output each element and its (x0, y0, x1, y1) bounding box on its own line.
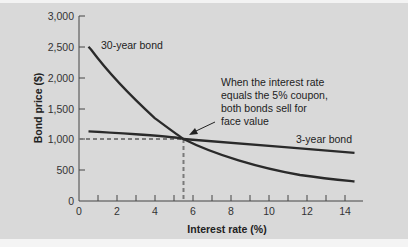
y-tick-2000: 2,000 (48, 72, 74, 84)
x-tick-2: 2 (114, 205, 120, 217)
label-3-year-bond: 3-year bond (296, 133, 352, 145)
annotation-line-4: face value (221, 115, 269, 127)
x-tick-0: 0 (76, 205, 82, 217)
arrow-head-icon (189, 128, 198, 135)
bond-price-chart: 3,000 2,500 2,000 1,500 1,000 500 0 Bond… (0, 0, 408, 247)
y-tick-2500: 2,500 (48, 41, 74, 53)
x-tick-12: 12 (301, 205, 313, 217)
x-axis: 0 2 4 6 8 10 12 14 Interest rate (%) (76, 195, 363, 235)
y-tick-1500: 1,500 (48, 103, 74, 115)
y-tick-500: 500 (56, 164, 74, 176)
x-tick-14: 14 (339, 205, 351, 217)
y-axis-title: Bond price ($) (32, 73, 44, 144)
face-value-reference-lines (79, 139, 184, 201)
x-tick-6: 6 (190, 205, 196, 217)
annotation-line-1: When the interest rate (221, 76, 324, 88)
y-axis: 3,000 2,500 2,000 1,500 1,000 500 0 Bond… (32, 10, 85, 207)
x-axis-title: Interest rate (%) (187, 223, 266, 235)
y-tick-0: 0 (68, 195, 74, 207)
annotation: When the interest rate equals the 5% cou… (189, 76, 328, 135)
y-tick-3000: 3,000 (48, 10, 74, 22)
label-30-year-bond: 30-year bond (101, 39, 163, 51)
x-tick-8: 8 (228, 205, 234, 217)
annotation-line-3: both bonds sell for (221, 102, 307, 114)
x-tick-10: 10 (263, 205, 275, 217)
annotation-line-2: equals the 5% coupon, (221, 89, 328, 101)
x-tick-4: 4 (152, 205, 158, 217)
y-tick-1000: 1,000 (48, 133, 74, 145)
arrow-shaft (196, 122, 215, 131)
